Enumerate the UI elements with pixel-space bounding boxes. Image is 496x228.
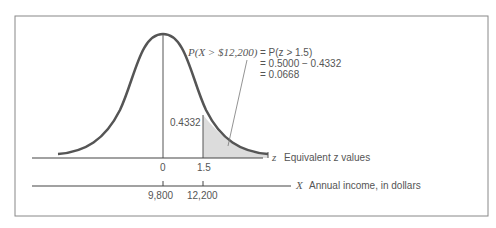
- x-tick-12200: 12,200: [187, 190, 218, 201]
- annotation-line-3: = 0.0668: [260, 69, 300, 80]
- x-axis-symbol: X: [295, 179, 304, 191]
- annotation-lhs: P(X > $12,200): [187, 46, 258, 59]
- x-axis-label: Annual income, in dollars: [309, 180, 421, 191]
- z-axis-label: Equivalent z values: [284, 152, 370, 163]
- annotation-rhs: = P(z > 1.5): [260, 47, 312, 58]
- area-label: 0.4332: [170, 117, 201, 128]
- z-tick-0: 0: [160, 162, 166, 173]
- z-tick-1-5: 1.5: [197, 162, 211, 173]
- z-axis-symbol: z: [271, 151, 277, 163]
- annotation-line-2: = 0.5000 − 0.4332: [260, 58, 342, 69]
- annotation-leader-line: [228, 60, 247, 146]
- x-tick-9800: 9,800: [148, 190, 173, 201]
- normal-curve-figure: z Equivalent z values 0 1.5 X Annual inc…: [0, 0, 496, 228]
